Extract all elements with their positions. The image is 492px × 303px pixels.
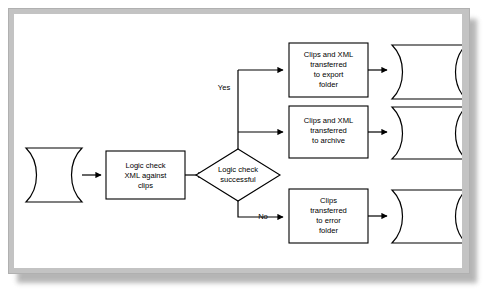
node-export-process-line-2: to export [314,70,344,79]
node-export-process-line-1: transferred [310,60,347,69]
edge-label-no: No [258,212,268,221]
node-logic-check-process-line-1: XML against [125,171,168,180]
node-error-process-line-0: Clips [320,196,337,205]
node-archive-process-line-0: Clips and XML [304,116,353,125]
node-export-process-line-3: folder [319,80,338,89]
node-logic-check-process-line-0: Logic check [125,161,165,170]
node-export-process-line-0: Clips and XML [304,50,353,59]
node-error-process-line-2: to error [316,216,341,225]
node-error-tape[interactable] [392,190,466,243]
flowchart-canvas: Logic check XML against clips Logic chec… [0,0,492,303]
node-archive-tape[interactable] [392,107,466,159]
flowchart-svg: Logic check XML against clips Logic chec… [0,0,492,303]
node-error-process-line-1: transferred [310,206,347,215]
edge-label-yes: Yes [218,83,231,92]
node-archive-process-line-1: transferred [310,126,347,135]
node-error-process-line-3: folder [319,226,338,235]
node-archive-process-line-2: to archive [312,136,345,145]
node-export-tape[interactable] [392,45,466,99]
node-logic-check-decision-line-1: successful [220,175,256,184]
node-logic-check-process-line-2: clips [138,181,153,190]
node-logic-check-decision-line-0: Logic check [218,165,258,174]
